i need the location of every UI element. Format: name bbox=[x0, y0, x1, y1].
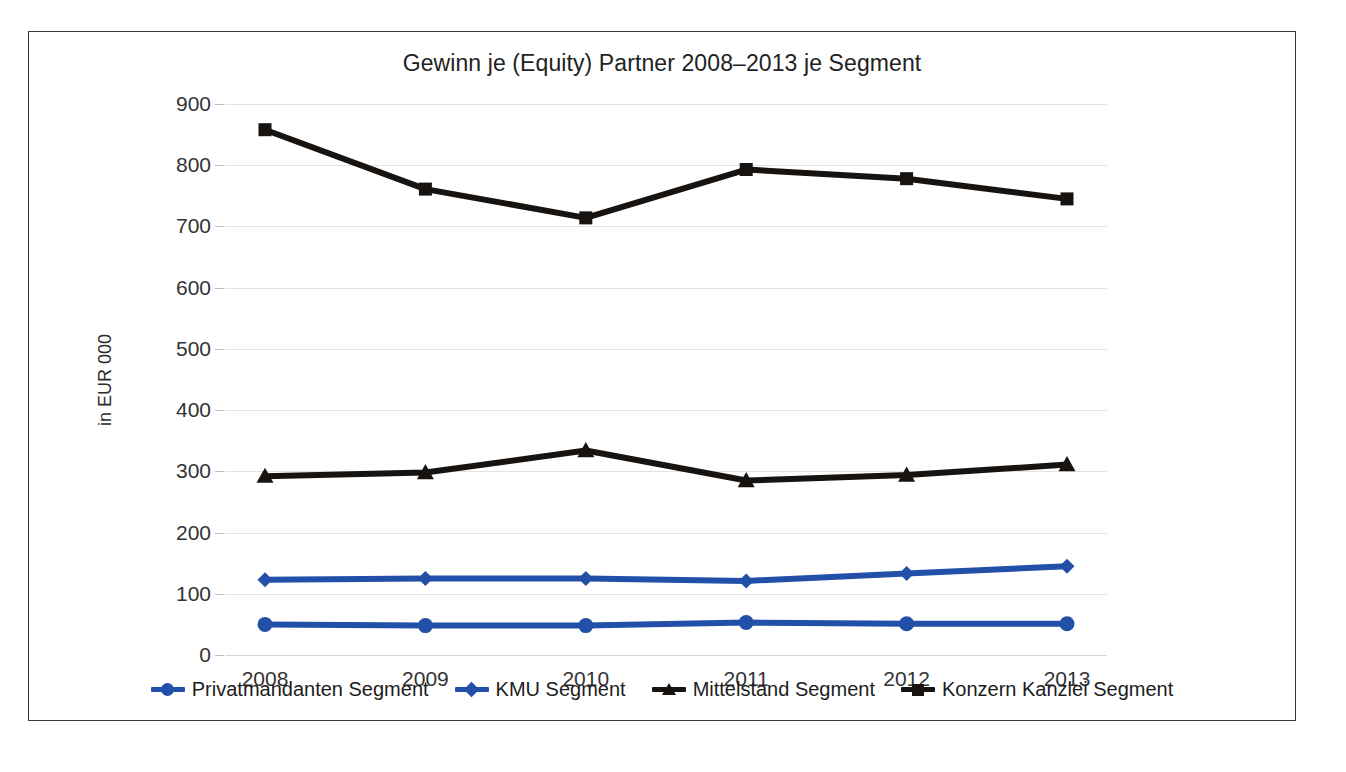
data-point-marker bbox=[899, 566, 914, 581]
y-tick-label: 800 bbox=[176, 153, 211, 177]
y-tick-label: 700 bbox=[176, 214, 211, 238]
legend-circle-icon bbox=[151, 682, 185, 698]
chart-title: Gewinn je (Equity) Partner 2008–2013 je … bbox=[29, 50, 1295, 77]
data-point-marker bbox=[419, 183, 432, 196]
y-tick-label: 100 bbox=[176, 582, 211, 606]
data-point-marker bbox=[578, 618, 593, 633]
y-tick-label: 600 bbox=[176, 276, 211, 300]
y-tick-mark bbox=[215, 288, 224, 289]
data-point-marker bbox=[418, 618, 433, 633]
legend-label: KMU Segment bbox=[496, 678, 626, 701]
data-point-marker bbox=[739, 615, 754, 630]
series-konzern-kanzlei-segment bbox=[259, 123, 1074, 224]
y-tick-mark bbox=[215, 594, 224, 595]
data-point-marker bbox=[259, 123, 272, 136]
series-kmu-segment bbox=[258, 559, 1075, 589]
y-tick-label: 400 bbox=[176, 398, 211, 422]
data-point-marker bbox=[1061, 192, 1074, 205]
figure-frame: Gewinn je (Equity) Partner 2008–2013 je … bbox=[28, 31, 1296, 721]
legend-item[interactable]: Konzern Kanzlei Segment bbox=[901, 678, 1173, 701]
legend-label: Konzern Kanzlei Segment bbox=[942, 678, 1173, 701]
y-tick-mark bbox=[215, 471, 224, 472]
legend-item[interactable]: KMU Segment bbox=[455, 678, 626, 701]
data-point-marker bbox=[418, 571, 433, 586]
y-tick-label: 0 bbox=[199, 643, 211, 667]
chart-page: Gewinn je (Equity) Partner 2008–2013 je … bbox=[0, 0, 1346, 772]
data-point-marker bbox=[899, 616, 914, 631]
legend-square-icon bbox=[901, 682, 935, 698]
legend-triangle-icon bbox=[652, 682, 686, 698]
legend: Privatmandanten SegmentKMU SegmentMittel… bbox=[29, 678, 1295, 701]
data-point-marker bbox=[578, 571, 593, 586]
data-point-marker bbox=[1060, 559, 1075, 574]
y-tick-mark bbox=[215, 226, 224, 227]
y-tick-mark bbox=[215, 104, 224, 105]
y-tick-label: 300 bbox=[176, 459, 211, 483]
series-line bbox=[265, 451, 1067, 481]
series-layer bbox=[225, 104, 1107, 655]
data-point-marker bbox=[258, 617, 273, 632]
data-point-marker bbox=[258, 572, 273, 587]
data-point-marker bbox=[900, 172, 913, 185]
series-line bbox=[265, 130, 1067, 218]
legend-label: Mittelstand Segment bbox=[693, 678, 875, 701]
gridline bbox=[225, 655, 1107, 656]
legend-label: Privatmandanten Segment bbox=[192, 678, 429, 701]
data-point-marker bbox=[739, 573, 754, 588]
y-tick-mark bbox=[215, 655, 224, 656]
y-tick-mark bbox=[215, 349, 224, 350]
series-privatmandanten-segment bbox=[258, 615, 1075, 633]
legend-item[interactable]: Mittelstand Segment bbox=[652, 678, 875, 701]
plot-area: in EUR 000 0100200300400500600700800900 … bbox=[225, 104, 1107, 655]
y-tick-label: 900 bbox=[176, 92, 211, 116]
legend-item[interactable]: Privatmandanten Segment bbox=[151, 678, 429, 701]
data-point-marker bbox=[1060, 616, 1075, 631]
y-tick-mark bbox=[215, 410, 224, 411]
series-line bbox=[265, 566, 1067, 581]
data-point-marker bbox=[740, 163, 753, 176]
series-mittelstand-segment bbox=[257, 442, 1076, 487]
legend-diamond-icon bbox=[455, 682, 489, 698]
y-tick-mark bbox=[215, 165, 224, 166]
data-point-marker bbox=[579, 211, 592, 224]
y-tick-label: 200 bbox=[176, 521, 211, 545]
series-line bbox=[265, 623, 1067, 626]
y-tick-mark bbox=[215, 533, 224, 534]
y-tick-label: 500 bbox=[176, 337, 211, 361]
y-axis-title: in EUR 000 bbox=[95, 333, 116, 425]
